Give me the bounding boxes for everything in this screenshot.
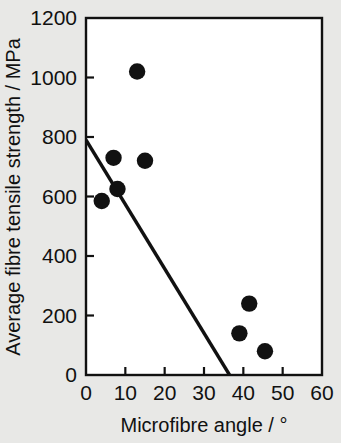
y-tick-label: 1000: [30, 66, 77, 89]
data-point: [94, 193, 110, 209]
scatter-chart: 0102030405060 020040060080010001200 Micr…: [0, 0, 341, 443]
y-tick-label: 1200: [30, 6, 77, 29]
x-tick-label: 40: [232, 381, 255, 404]
y-tick-label: 600: [42, 185, 77, 208]
data-point: [241, 295, 257, 311]
x-tick-label: 50: [271, 381, 294, 404]
y-tick-label: 200: [42, 304, 77, 327]
x-tick-label: 30: [192, 381, 215, 404]
x-tick-label: 20: [153, 381, 176, 404]
data-point: [105, 150, 121, 166]
chart-figure: 0102030405060 020040060080010001200 Micr…: [0, 0, 341, 443]
x-tick-label: 0: [80, 381, 92, 404]
data-point: [109, 181, 125, 197]
y-axis-title: Average fibre tensile strength / MPa: [2, 37, 24, 355]
y-tick-label: 0: [65, 363, 77, 386]
data-point: [231, 325, 247, 341]
x-tick-label: 60: [310, 381, 333, 404]
data-point: [129, 63, 145, 79]
x-axis-title: Microfibre angle / °: [121, 414, 288, 436]
data-point: [257, 343, 273, 359]
y-tick-label: 800: [42, 125, 77, 148]
x-tick-label: 10: [114, 381, 137, 404]
y-tick-label: 400: [42, 244, 77, 267]
data-point: [137, 153, 153, 169]
